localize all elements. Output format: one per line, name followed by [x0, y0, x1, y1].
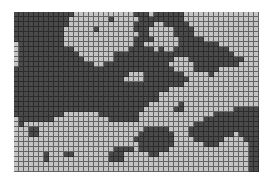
grid-cell [254, 167, 259, 172]
occupancy-grid-map [14, 12, 259, 172]
